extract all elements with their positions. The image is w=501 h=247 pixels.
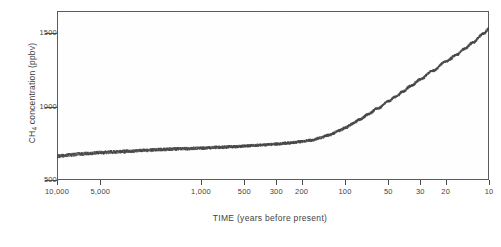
x-tick-mark xyxy=(302,180,303,185)
y-tick-mark xyxy=(45,180,57,181)
x-tick-label: 5,000 xyxy=(75,187,125,196)
x-tick-mark xyxy=(100,180,101,185)
x-tick-mark xyxy=(420,180,421,185)
y-tick-1500: 1500 xyxy=(0,33,57,34)
x-axis-title: TIME (years before present) xyxy=(160,213,380,223)
data-curve-canvas xyxy=(57,11,489,180)
y-axis-title-subscript: 4 xyxy=(31,127,38,131)
y-tick-mark xyxy=(45,107,57,108)
y-tick-mark xyxy=(45,33,57,34)
y-axis-title-prefix: CH xyxy=(27,131,37,144)
x-tick-mark xyxy=(244,180,245,185)
y-axis-title-suffix: concentration (ppbv) xyxy=(27,43,37,127)
x-tick-mark xyxy=(388,180,389,185)
x-tick-label: 10 xyxy=(464,187,501,196)
x-tick-mark xyxy=(276,180,277,185)
x-tick-mark xyxy=(345,180,346,185)
x-tick-mark xyxy=(201,180,202,185)
x-tick-mark xyxy=(489,180,490,185)
x-tick-mark xyxy=(57,180,58,185)
x-tick-mark xyxy=(446,180,447,185)
y-tick-1000: 1000 xyxy=(0,107,57,108)
y-tick-500: 500 xyxy=(0,180,57,181)
methane-concentration-chart: CH4 concentration (ppbv) 50010001500 10,… xyxy=(0,0,501,247)
